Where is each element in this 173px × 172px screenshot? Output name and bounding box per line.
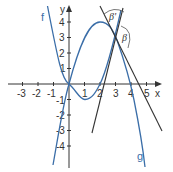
function-diagram: -3 -2 -1 1 2 3 4 5 x 4 3 2 1 -1 -2 -3 -4… [0,0,173,172]
x-tick-label: -2 [32,88,41,99]
x-tick-label: 3 [113,88,119,99]
curve-label-f: f [41,11,45,23]
y-tick-label: 3 [59,32,65,43]
curve-label-g: g [137,150,143,162]
coordinate-plot: -3 -2 -1 1 2 3 4 5 x 4 3 2 1 -1 -2 -3 -4… [0,0,173,172]
y-tick-label: 2 [59,48,65,59]
tangent-line-g [100,6,162,131]
y-tick-label: 4 [59,17,65,28]
x-tick-labels: -3 -2 -1 1 2 3 4 5 x [17,88,160,99]
angle-label-beta: β [121,32,127,43]
x-axis-label: x [155,88,160,99]
angle-label-beta-prime: β' [108,11,117,22]
y-tick-label: -3 [56,125,65,136]
x-tick-label: -1 [47,88,56,99]
x-tick-label: 1 [82,88,88,99]
tangent-line-f [92,8,123,133]
y-axis-label: y [60,4,65,15]
x-tick-label: -3 [17,88,26,99]
